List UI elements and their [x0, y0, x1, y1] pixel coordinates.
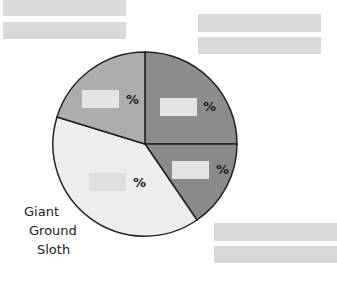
blank-value-slice-2: [172, 161, 209, 179]
percent-sign-slice-2: %: [216, 162, 229, 177]
blank-value-slice-4: [82, 90, 119, 108]
percent-sign-slice-4: %: [126, 92, 139, 107]
blank-value-slice-1: [160, 98, 197, 116]
slice-label-giant: Giant: [24, 203, 59, 221]
slice-label-ground: Ground: [29, 222, 77, 240]
percent-sign-slice-sloth: %: [133, 175, 146, 190]
percent-sign-slice-1: %: [203, 99, 216, 114]
blank-value-slice-sloth: [89, 173, 126, 191]
slice-label-sloth: Sloth: [37, 241, 70, 259]
